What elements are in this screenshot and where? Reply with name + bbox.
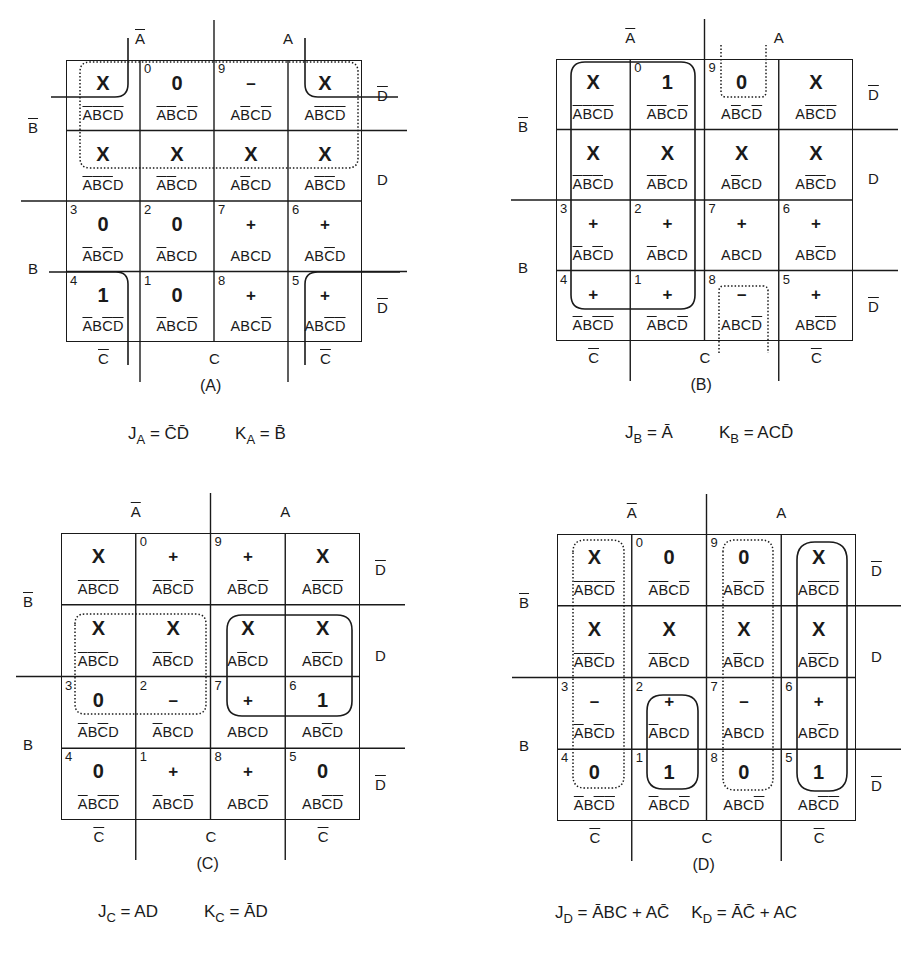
kmap-cell: 2–ABCD	[136, 677, 211, 749]
cell-minterm: ABCD	[556, 247, 630, 263]
label-d-bar-top: D	[377, 87, 388, 104]
kmap-cell: 3+ABCD	[556, 200, 630, 271]
cell-minterm: ABCD	[66, 318, 140, 334]
k-subscript: A	[246, 432, 255, 447]
cell-value: X	[136, 617, 211, 640]
cell-minterm: ABCD	[214, 248, 288, 264]
j-name: J	[128, 424, 137, 443]
kmap-cell: 0+ABCD	[136, 533, 211, 605]
cell-minterm: ABCD	[288, 248, 362, 264]
label-a-bar: A	[135, 30, 145, 47]
j-expression: ĀBC + AC̄	[592, 903, 669, 922]
k-equation: KB = ACD̄	[719, 423, 793, 442]
k-equation: KD = ĀC̄ + AC	[691, 903, 797, 922]
cell-value: 0	[61, 689, 136, 712]
kmap-cell: XABCD	[285, 605, 360, 677]
kmap-cell: 20ABCD	[140, 201, 214, 272]
k-expression: ĀC̄ + AC	[731, 903, 797, 922]
kmap-cell: 1+ABCD	[136, 748, 211, 820]
cell-value: –	[214, 74, 288, 94]
cell-value: 1	[66, 284, 140, 307]
kmap-cell: XABCD	[557, 606, 632, 678]
cell-value: 0	[557, 761, 632, 784]
kmap-cell: XABCD	[211, 605, 286, 677]
cell-minterm: ABCD	[556, 317, 630, 333]
cell-minterm: ABCD	[705, 247, 779, 263]
label-b-bar: B	[23, 593, 33, 610]
cell-minterm: ABCD	[285, 796, 360, 812]
cell-value: X	[140, 143, 214, 166]
cell-minterm: ABCD	[136, 581, 211, 597]
label-c-bar-right: C	[318, 828, 329, 845]
kmap-cell: 40ABCD	[557, 749, 632, 821]
kmap-cell: 90ABCD	[705, 59, 779, 130]
cell-minterm: ABCD	[288, 177, 362, 193]
cell-minterm: ABCD	[285, 653, 360, 669]
k-equation: KC = ĀD	[204, 902, 268, 921]
kmap-cell: 5+ABCD	[288, 272, 362, 343]
cell-minterm: ABCD	[288, 107, 362, 123]
label-c-bar-right: C	[811, 349, 822, 366]
cell-minterm: ABCD	[557, 725, 632, 741]
kmap-cell: 8+ABCD	[214, 272, 288, 343]
label-a-bar: A	[625, 29, 635, 46]
cell-value: 1	[285, 689, 360, 712]
cell-value: X	[781, 546, 856, 569]
kmap-cell: 10ABCD	[140, 272, 214, 343]
kmap-cell: XABCD	[632, 606, 707, 678]
cell-value: +	[556, 285, 630, 305]
label-c-bar-right: C	[320, 350, 331, 367]
map-caption: (B)	[691, 376, 712, 394]
j-expression: Ā	[662, 423, 673, 442]
cell-value: +	[779, 214, 853, 234]
cell-value: +	[781, 692, 856, 712]
cell-minterm: ABCD	[211, 653, 286, 669]
cell-value: 1	[781, 761, 856, 784]
kmap-cell: XABCD	[66, 60, 140, 131]
cell-minterm: ABCD	[705, 176, 779, 192]
label-c: C	[700, 349, 711, 366]
cell-minterm: ABCD	[66, 177, 140, 193]
label-a: A	[774, 29, 784, 46]
label-b: B	[519, 737, 529, 754]
kmap-cell: 9–ABCD	[214, 60, 288, 131]
cell-value: 1	[630, 71, 704, 94]
j-equation: JD = ĀBC + AC̄	[555, 903, 669, 922]
cell-value: +	[630, 214, 704, 234]
label-b-bar: B	[28, 119, 38, 136]
cell-minterm: ABCD	[66, 248, 140, 264]
jk-equations: JA = C̄D̄KA = B̄	[128, 424, 286, 447]
cell-value: X	[61, 617, 136, 640]
cell-minterm: ABCD	[630, 317, 704, 333]
cell-minterm: ABCD	[632, 582, 707, 598]
label-d-bar-bottom: D	[871, 777, 882, 794]
cell-value: +	[632, 692, 707, 712]
j-expression: C̄D̄	[165, 424, 190, 443]
kmap-cell: 01ABCD	[630, 59, 704, 130]
cell-minterm: ABCD	[61, 581, 136, 597]
cell-value: X	[705, 142, 779, 165]
kmap-cell: 2+ABCD	[630, 200, 704, 271]
cell-value: 0	[140, 213, 214, 236]
kmap-cell: XABCD	[556, 59, 630, 130]
kmap-cell: 9+ABCD	[211, 533, 286, 605]
cell-value: X	[557, 618, 632, 641]
cell-value: X	[630, 142, 704, 165]
cell-value: +	[556, 214, 630, 234]
map-caption: (D)	[693, 856, 715, 874]
kmap-cell: 3–ABCD	[557, 678, 632, 750]
cell-minterm: ABCD	[61, 724, 136, 740]
label-a: A	[283, 30, 293, 47]
label-c: C	[209, 350, 220, 367]
j-subscript: C	[107, 910, 116, 925]
kmap-cell: 6+ABCD	[781, 678, 856, 750]
label-c-bar-right: C	[814, 829, 825, 846]
cell-value: –	[705, 285, 779, 305]
cell-minterm: ABCD	[61, 653, 136, 669]
cell-minterm: ABCD	[211, 796, 286, 812]
cell-value: 0	[61, 760, 136, 783]
cell-value: X	[779, 142, 853, 165]
cell-minterm: ABCD	[140, 318, 214, 334]
cell-value: X	[632, 618, 707, 641]
j-subscript: A	[137, 432, 146, 447]
